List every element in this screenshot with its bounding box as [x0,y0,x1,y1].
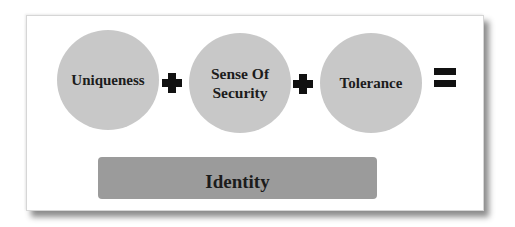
term-circle-sense-of-security: Sense Of Security [189,33,291,133]
term-label: Uniqueness [71,71,144,90]
plus-icon [162,73,182,93]
equals-icon [434,68,456,87]
term-label: Sense Of Security [200,64,280,102]
term-label: Tolerance [340,74,403,93]
plus-icon [293,74,313,94]
diagram-panel: Uniqueness Sense Of Security Tolerance I… [26,15,484,211]
term-circle-uniqueness: Uniqueness [57,30,159,130]
result-label: Identity [205,171,269,193]
result-bar-identity: Identity [98,157,377,199]
term-circle-tolerance: Tolerance [320,33,422,133]
